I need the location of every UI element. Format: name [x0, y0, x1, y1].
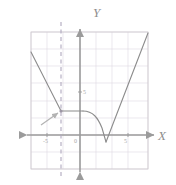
descending-dip: [83, 111, 106, 142]
y-tick-label-positive-five: 5: [83, 89, 86, 95]
grid-lines: [31, 32, 148, 169]
graph-figure: Y X -5 5 5 0: [0, 0, 176, 185]
x-tick-label-negative-five: -5: [43, 138, 48, 144]
origin-label: 0: [74, 138, 77, 144]
left-descending-ray: [31, 52, 61, 111]
pointer-arrow: [41, 113, 58, 125]
rising-ray: [106, 33, 148, 142]
y-axis-label: Y: [93, 6, 100, 19]
plot-frame: [31, 32, 148, 169]
plot-canvas: [0, 0, 176, 185]
axis-ticks: [47, 92, 128, 137]
discontinuity-point: [59, 109, 62, 112]
x-tick-label-positive-five: 5: [124, 138, 127, 144]
x-axis-label: X: [158, 129, 166, 142]
function-curve: [31, 33, 148, 142]
